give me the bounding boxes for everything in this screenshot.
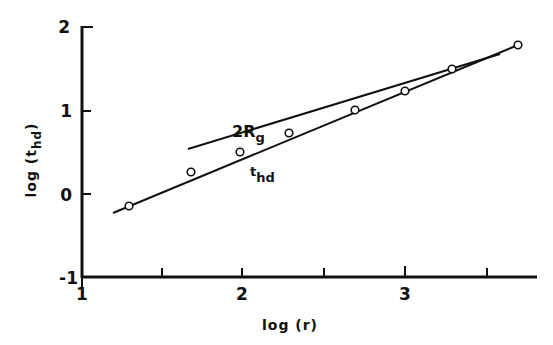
x-tick-label-1: 1 bbox=[76, 284, 88, 304]
y-tick-label-2: 2 bbox=[58, 17, 70, 37]
annotation-2rg-main: 2R bbox=[232, 122, 255, 141]
x-axis-title: log (r) bbox=[262, 317, 318, 333]
data-point bbox=[236, 148, 244, 156]
x-tick-label-2: 2 bbox=[236, 284, 248, 304]
data-point bbox=[514, 41, 522, 49]
data-point bbox=[285, 129, 293, 137]
y-axis-title-sub: hd bbox=[30, 130, 44, 149]
y-axis-title-close: ) bbox=[23, 123, 39, 130]
annotation-thd-sub: hd bbox=[256, 170, 275, 185]
annotation-2rg: 2Rg bbox=[232, 122, 265, 145]
data-point bbox=[125, 202, 133, 210]
chart: 2 1 0 -1 1 2 3 log (r) log (thd) 2Rg thd bbox=[0, 0, 553, 345]
svg-text:log (thd): log (thd) bbox=[23, 123, 44, 198]
y-tick-label-1: 1 bbox=[60, 101, 72, 121]
data-point bbox=[448, 65, 456, 73]
y-axis-title-main: log (t bbox=[23, 149, 39, 197]
y-axis-title: log (thd) bbox=[23, 123, 44, 198]
x-tick-label-3: 3 bbox=[399, 284, 411, 304]
thd-fit-line bbox=[113, 45, 518, 213]
data-point bbox=[401, 87, 409, 95]
annotation-thd: thd bbox=[250, 164, 275, 185]
data-point bbox=[187, 168, 195, 176]
data-point bbox=[351, 106, 359, 114]
annotation-2rg-sub: g bbox=[255, 130, 264, 145]
y-tick-label-0: 0 bbox=[60, 185, 72, 205]
